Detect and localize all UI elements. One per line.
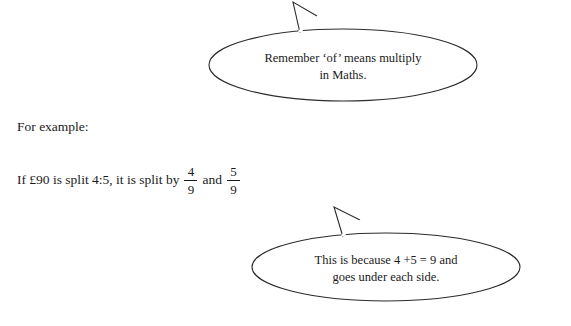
- because-bubble-line1: This is because 4 +5 = 9 and: [248, 252, 524, 269]
- fraction2-denominator: 9: [227, 182, 240, 197]
- split-sentence: If £90 is split 4:5, it is split by 4 9 …: [17, 163, 245, 196]
- remember-bubble-line1: Remember ‘of’ means multiply: [205, 50, 481, 67]
- fraction1-denominator: 9: [185, 182, 198, 197]
- remember-bubble-line2: in Maths.: [205, 67, 481, 84]
- remember-bubble-text: Remember ‘of’ means multiply in Maths.: [205, 50, 481, 84]
- because-bubble-line2: goes under each side.: [248, 269, 524, 286]
- remember-bubble: Remember ‘of’ means multiply in Maths.: [205, 8, 481, 108]
- for-example-label: For example:: [17, 119, 89, 135]
- fraction2-bar: [227, 180, 240, 181]
- fraction1-numerator: 4: [185, 164, 198, 179]
- fraction-five-ninths: 5 9: [227, 164, 240, 197]
- split-sentence-conjunction: and: [202, 172, 222, 188]
- because-bubble-text: This is because 4 +5 = 9 and goes under …: [248, 252, 524, 286]
- document-page: Remember ‘of’ means multiply in Maths. F…: [0, 0, 571, 326]
- fraction1-bar: [184, 180, 197, 181]
- fraction2-numerator: 5: [227, 164, 240, 179]
- split-sentence-before: If £90 is split 4:5, it is split by: [17, 172, 179, 188]
- because-bubble: This is because 4 +5 = 9 and goes under …: [248, 213, 524, 313]
- fraction-four-ninths: 4 9: [184, 164, 197, 197]
